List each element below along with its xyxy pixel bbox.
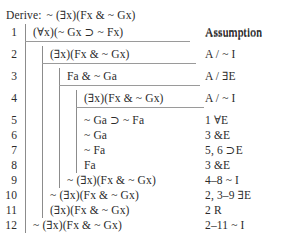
scope-bar-depth-1: [25, 24, 26, 47]
line-formula: ~ Fa: [84, 143, 105, 158]
scope-bar-depth-1: [25, 46, 26, 69]
scope-bar-depth-2: [42, 90, 43, 113]
line-formula: (∃x)(Fx & ~ Gx): [50, 47, 130, 62]
scope-bar-depth-2: [42, 172, 43, 188]
scope-bar-depth-1: [25, 217, 26, 233]
proof-line: 11(∃x)(Fx & ~ Gx)2 R: [0, 203, 292, 218]
line-number: 12: [0, 218, 17, 233]
line-number: 2: [0, 47, 17, 62]
assumption-rule: [42, 63, 196, 64]
proof-line-list: 1(∀x)(~ Gx ⊃ ~ Fx)Assumption2(∃x)(Fx & ~…: [0, 25, 292, 233]
assumption-rule: [59, 85, 200, 86]
scope-bar-depth-2: [42, 187, 43, 203]
scope-bar-depth-3: [59, 127, 60, 143]
scope-bar-depth-2: [42, 68, 43, 91]
scope-bar-depth-4: [76, 127, 77, 143]
scope-bar-depth-1: [25, 112, 26, 128]
proof-line: 8Fa3 &E: [0, 158, 292, 173]
line-number: 8: [0, 158, 17, 173]
line-number: 9: [0, 173, 17, 188]
line-formula: (∀x)(~ Gx ⊃ ~ Fx): [33, 25, 123, 40]
line-justification: 2–11 ~ I: [205, 218, 245, 233]
scope-bar-depth-1: [25, 127, 26, 143]
proof-line: 3Fa & ~ GaA / ∃E: [0, 69, 292, 91]
line-number: 6: [0, 128, 17, 143]
line-formula: ~ (∃x)(Fx & ~ Gx): [50, 188, 139, 203]
line-justification: 3 &E: [205, 158, 230, 173]
assumption-rule: [76, 107, 204, 108]
line-justification: A / ~ I: [205, 91, 236, 106]
line-formula: Fa: [84, 158, 96, 173]
proof-line: 1(∀x)(~ Gx ⊃ ~ Fx)Assumption: [0, 25, 292, 47]
proof-line: 6~ Ga3 &E: [0, 128, 292, 143]
line-justification: A / ∃E: [205, 69, 236, 84]
scope-bar-depth-4: [76, 90, 77, 113]
scope-bar-depth-2: [42, 46, 43, 69]
line-justification: 4–8 ~ I: [205, 173, 239, 188]
line-formula: Fa & ~ Ga: [67, 69, 117, 84]
assumption-rule: [25, 41, 190, 42]
scope-bar-depth-1: [25, 172, 26, 188]
line-formula: ~ Ga ⊃ ~ Fa: [84, 113, 144, 128]
proof-line: 12~ (∃x)(Fx & ~ Gx)2–11 ~ I: [0, 218, 292, 233]
line-number: 11: [0, 203, 17, 218]
line-formula: ~ Ga: [84, 128, 107, 143]
line-number: 10: [0, 188, 17, 203]
proof-line: 7~ Fa5, 6 ⊃E: [0, 143, 292, 158]
line-justification: Assumption: [205, 25, 262, 40]
line-justification: 2, 3–9 ∃E: [205, 188, 251, 203]
scope-bar-depth-3: [59, 142, 60, 158]
scope-bar-depth-3: [59, 112, 60, 128]
proof-line: 2(∃x)(Fx & ~ Gx)A / ~ I: [0, 47, 292, 69]
scope-bar-depth-2: [42, 127, 43, 143]
line-formula: ~ (∃x)(Fx & ~ Gx): [67, 173, 156, 188]
line-justification: A / ~ I: [205, 47, 236, 62]
scope-bar-depth-4: [76, 142, 77, 158]
scope-bar-depth-3: [59, 90, 60, 113]
line-formula: (∃x)(Fx & ~ Gx): [50, 203, 130, 218]
derive-label: Derive:: [6, 9, 42, 21]
line-number: 5: [0, 113, 17, 128]
line-justification: 3 &E: [205, 128, 230, 143]
proof-line: 4(∃x)(Fx & ~ Gx)A / ~ I: [0, 91, 292, 113]
scope-bar-depth-1: [25, 187, 26, 203]
proof-sheet: Derive: ~ (∃x)(Fx & ~ Gx) Assumption 1(∀…: [0, 0, 292, 252]
scope-bar-depth-1: [25, 68, 26, 91]
scope-bar-depth-1: [25, 202, 26, 218]
line-number: 4: [0, 91, 17, 106]
scope-bar-depth-1: [25, 157, 26, 173]
derive-header: Derive: ~ (∃x)(Fx & ~ Gx): [6, 9, 136, 22]
proof-line: 5~ Ga ⊃ ~ Fa1 ∀E: [0, 113, 292, 128]
scope-bar-depth-1: [25, 90, 26, 113]
line-justification: 2 R: [205, 203, 222, 218]
proof-line: 9~ (∃x)(Fx & ~ Gx)4–8 ~ I: [0, 173, 292, 188]
scope-bar-depth-4: [76, 112, 77, 128]
line-number: 1: [0, 25, 17, 40]
scope-bar-depth-2: [42, 112, 43, 128]
line-justification: 1 ∀E: [205, 113, 228, 128]
scope-bar-depth-3: [59, 157, 60, 173]
line-formula: ~ (∃x)(Fx & ~ Gx): [33, 218, 122, 233]
scope-bar-depth-1: [25, 142, 26, 158]
line-number: 3: [0, 69, 17, 84]
line-number: 7: [0, 143, 17, 158]
scope-bar-depth-4: [76, 157, 77, 173]
line-formula: (∃x)(Fx & ~ Gx): [84, 91, 164, 106]
scope-bar-depth-3: [59, 172, 60, 188]
scope-bar-depth-2: [42, 142, 43, 158]
scope-bar-depth-2: [42, 202, 43, 218]
goal-formula: ~ (∃x)(Fx & ~ Gx): [47, 9, 136, 21]
scope-bar-depth-3: [59, 68, 60, 91]
proof-line: 10~ (∃x)(Fx & ~ Gx)2, 3–9 ∃E: [0, 188, 292, 203]
line-justification: 5, 6 ⊃E: [205, 143, 243, 158]
scope-bar-depth-2: [42, 157, 43, 173]
